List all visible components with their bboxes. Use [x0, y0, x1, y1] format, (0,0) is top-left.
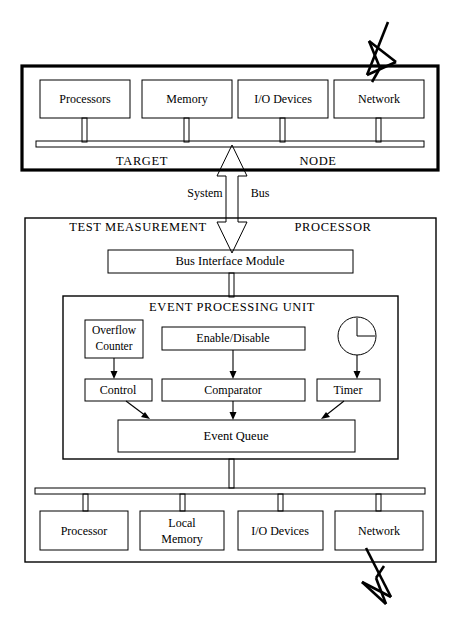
arrow-enable-to-comparator — [230, 350, 237, 379]
arrow-comparator-to-event-queue — [230, 401, 237, 420]
tmp-label-right: PROCESSOR — [295, 220, 372, 234]
target-component-label-io-devices: I/O Devices — [254, 92, 312, 106]
system-bus-label-right: Bus — [251, 186, 270, 200]
arrow-clock-to-timer — [354, 355, 361, 379]
bus-interface-module-label: Bus Interface Module — [176, 254, 285, 268]
overflow-counter-label-line2: Counter — [95, 340, 132, 352]
arrow-overflow-to-control — [111, 358, 118, 379]
tmp-component-label-local-memory-line2: Memory — [161, 532, 202, 546]
system-bus-label-left: System — [187, 186, 223, 200]
tmp-component-label-io-devices: I/O Devices — [251, 524, 309, 538]
target-bus-connectors — [82, 118, 381, 142]
block-diagram-svg: Processors Memory I/O Devices Network TA… — [0, 0, 462, 630]
arrow-timer-to-event-queue — [321, 401, 344, 419]
target-node-bus-bar — [36, 141, 424, 147]
event-processing-unit-title: EVENT PROCESSING UNIT — [149, 300, 315, 314]
overflow-counter-label-line1: Overflow — [92, 324, 137, 336]
tmp-component-label-network: Network — [358, 524, 400, 538]
target-component-label-processors: Processors — [59, 92, 111, 106]
target-component-label-memory: Memory — [166, 92, 207, 106]
event-queue-label: Event Queue — [204, 429, 269, 443]
timer-label: Timer — [334, 383, 363, 397]
target-component-label-network: Network — [358, 92, 400, 106]
epu-to-bus-connector — [229, 459, 234, 488]
comparator-label: Comparator — [204, 383, 261, 397]
target-node-label-left: TARGET — [116, 154, 168, 168]
lightning-bolt-connector-top — [367, 22, 396, 82]
lightning-bolt-connector-bottom — [362, 548, 391, 604]
clock-icon — [338, 317, 376, 355]
control-label: Control — [100, 383, 137, 397]
arrow-control-to-event-queue — [126, 401, 150, 419]
diagram-canvas: Processors Memory I/O Devices Network TA… — [0, 0, 462, 630]
enable-disable-label: Enable/Disable — [196, 331, 269, 345]
tmp-bus-connectors — [83, 494, 381, 511]
tmp-component-label-local-memory-line1: Local — [168, 516, 196, 530]
tmp-bus-bar — [35, 488, 425, 494]
tmp-label-left: TEST MEASUREMENT — [69, 220, 207, 234]
target-node-label-right: NODE — [299, 154, 336, 168]
bim-to-epu-connector — [229, 273, 234, 297]
tmp-component-label-processor: Processor — [61, 524, 108, 538]
